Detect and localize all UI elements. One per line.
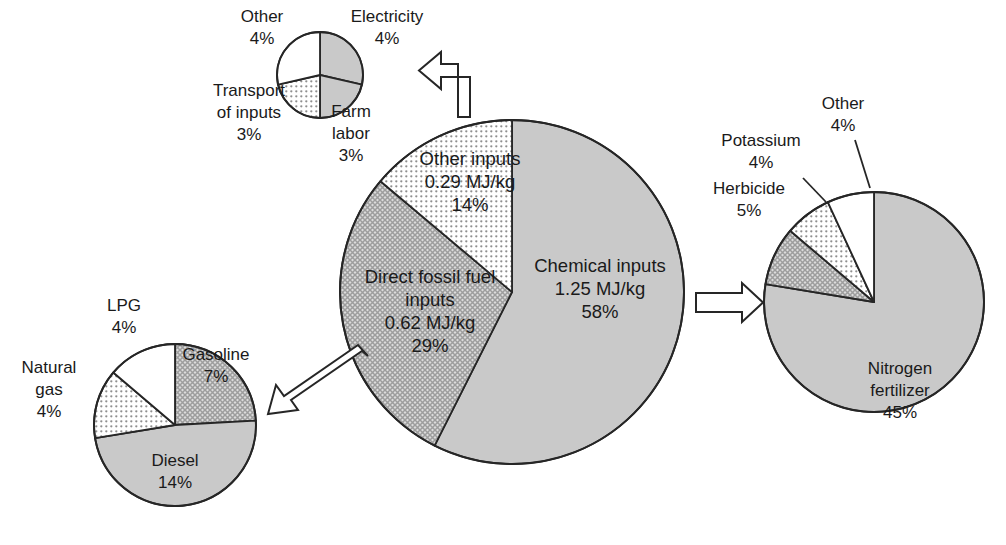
label-line: Nitrogen [868,359,932,378]
label-line: LPG [107,296,141,315]
label-line: 3% [237,125,262,144]
label-line: 1.25 MJ/kg [555,278,646,299]
label-line: 4% [831,116,856,135]
label-line: Herbicide [713,179,785,198]
label-line: 4% [250,29,275,48]
pie-label-other-inputs-0: Electricity4% [351,7,424,48]
label-line: labor [332,124,370,143]
pie-label-fossil-fuel-3: LPG4% [107,296,141,337]
figure-canvas: Chemical inputs1.25 MJ/kg58%Direct fossi… [0,0,1006,545]
pie-label-other-inputs-3: Other4% [241,7,284,48]
label-line: 4% [37,402,62,421]
label-line: 45% [883,403,917,422]
arrow-up-left-bent [419,52,470,117]
label-line: Chemical inputs [534,255,666,276]
label-line: Transport [213,81,285,100]
arrow-right [696,283,763,322]
label-line: 14% [451,194,488,215]
label-line: 4% [375,29,400,48]
label-line: Electricity [351,7,424,26]
pie-label-chemical-1: Herbicide5% [713,179,785,220]
label-line: Natural [22,358,77,377]
arrow-down-left-diagonal [268,345,368,414]
label-line: Potassium [721,131,800,150]
label-line: Other inputs [420,148,521,169]
pie-chart-figure: Chemical inputs1.25 MJ/kg58%Direct fossi… [0,0,1006,545]
label-line: 4% [749,153,774,172]
pie-chemical [764,192,984,412]
label-line: Farm [331,102,371,121]
label-line: inputs [405,289,454,310]
label-line: Diesel [151,451,198,470]
label-line: 5% [737,201,762,220]
pie-label-chemical-2: Potassium4% [721,131,800,172]
label-line: 58% [581,301,618,322]
pie-label-other-inputs-2: Transportof inputs3% [213,81,285,144]
label-line: of inputs [217,103,281,122]
pie-label-other-inputs-1: Farmlabor3% [331,102,371,165]
leader-other [855,140,870,188]
label-line: 3% [339,146,364,165]
leader-potassium [803,178,826,202]
pie-label-fossil-fuel-2: Naturalgas4% [22,358,77,421]
label-line: gas [35,380,62,399]
label-line: fertilizer [870,381,930,400]
pie-slice-other[interactable] [277,32,320,85]
label-line: Gasoline [182,345,249,364]
label-line: 4% [112,318,137,337]
label-line: 29% [411,335,448,356]
pie-label-chemical-3: Other4% [822,94,865,135]
label-line: 0.29 MJ/kg [425,171,516,192]
label-line: 14% [158,473,192,492]
label-line: Direct fossil fuel [365,266,496,287]
label-line: Other [241,7,284,26]
label-line: 0.62 MJ/kg [385,312,476,333]
label-line: 7% [204,367,229,386]
label-line: Other [822,94,865,113]
